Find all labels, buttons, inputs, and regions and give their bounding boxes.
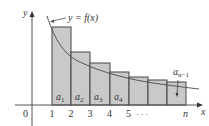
tick-2: 2 [69, 108, 74, 119]
origin-label: 0 [23, 108, 28, 119]
tick-3: 3 [88, 108, 93, 119]
x-axis-label: x [200, 106, 206, 117]
rect-5 [129, 77, 148, 105]
tick-1: 1 [50, 108, 55, 119]
tick-5: 5 [126, 108, 131, 119]
y-axis-label: y [22, 7, 28, 18]
curve-label: y = f(x) [67, 12, 99, 24]
tick-4: 4 [107, 108, 112, 119]
x-tick-labels: 1 2 3 4 5 · · · [50, 108, 149, 119]
rectangles [52, 27, 186, 105]
rect-1 [52, 27, 71, 105]
tick-dots: · · · [136, 110, 148, 119]
curve-label-leader [52, 18, 66, 21]
label-an-1: an−1 [173, 66, 189, 79]
tick-n: n [183, 108, 188, 119]
y-axis-arrow-icon [30, 11, 35, 17]
leader-arrow-icon [50, 20, 54, 24]
integral-test-diagram: y x 0 y = f(x) 1 2 3 4 5 · · · n a1 a2 a… [0, 0, 209, 126]
